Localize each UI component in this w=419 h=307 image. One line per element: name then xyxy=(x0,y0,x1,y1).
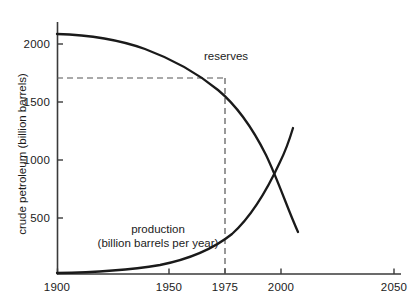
production-label-line2: (billion barrels per year) xyxy=(88,236,228,250)
y-tick-label-1000: 1000 xyxy=(6,154,50,166)
chart-plot-area xyxy=(0,0,419,307)
x-tick-label-2050: 2050 xyxy=(381,281,407,293)
x-tick-label-1900: 1900 xyxy=(44,281,70,293)
x-tick-label-2000: 2000 xyxy=(268,281,294,293)
y-tick-label-2000: 2000 xyxy=(6,38,50,50)
reserves-curve xyxy=(57,34,298,232)
production-label-line1: production xyxy=(131,223,185,235)
production-curve xyxy=(57,128,293,273)
x-tick-label-1975: 1975 xyxy=(212,281,238,293)
reserves-series-label: reserves xyxy=(204,50,248,62)
y-tick-label-500: 500 xyxy=(6,212,50,224)
crude-petroleum-chart: crude petroleum (billion barrels) 2000 1… xyxy=(0,0,419,307)
x-tick-label-1950: 1950 xyxy=(156,281,182,293)
y-tick-marks xyxy=(58,44,64,218)
production-series-label: production (billion barrels per year) xyxy=(88,222,228,250)
y-tick-label-1500: 1500 xyxy=(6,96,50,108)
